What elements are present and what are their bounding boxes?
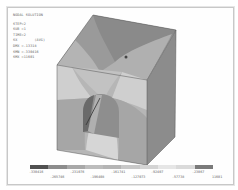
legend-band-10 bbox=[195, 165, 213, 169]
legend-label: -161741 bbox=[111, 170, 125, 174]
legend-band-8 bbox=[158, 165, 176, 169]
legend-band-3 bbox=[67, 165, 85, 169]
legend-band-1 bbox=[30, 165, 48, 169]
legend-label: -57738 bbox=[172, 175, 184, 179]
legend-label: -330416 bbox=[29, 170, 43, 174]
legend-band-2 bbox=[48, 165, 66, 169]
legend-label: 11601 bbox=[212, 175, 222, 179]
legend-label: -196408 bbox=[90, 175, 104, 179]
legend-label: -23067 bbox=[192, 170, 204, 174]
legend-label: -92407 bbox=[151, 170, 163, 174]
legend-band-4 bbox=[85, 165, 103, 169]
legend-label: -127073 bbox=[131, 175, 145, 179]
legend-band-6 bbox=[121, 165, 139, 169]
legend-band-5 bbox=[103, 165, 121, 169]
contour-legend bbox=[30, 165, 213, 169]
contour-model bbox=[0, 0, 238, 190]
legend-band-7 bbox=[140, 165, 158, 169]
legend-band-9 bbox=[176, 165, 194, 169]
legend-label: -265746 bbox=[50, 175, 64, 179]
legend-label: -231076 bbox=[70, 170, 84, 174]
